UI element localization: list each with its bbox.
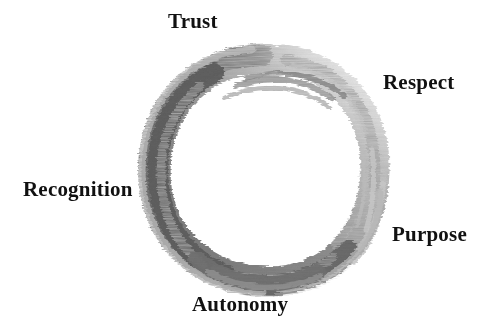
enso-brush-circle [0,0,497,333]
value-label-recognition: Recognition [23,179,133,200]
diagram-canvas: Trust Respect Purpose Autonomy Recogniti… [0,0,497,333]
value-label-trust: Trust [168,11,218,32]
value-label-purpose: Purpose [392,224,467,245]
value-label-autonomy: Autonomy [192,294,288,315]
value-label-respect: Respect [383,72,454,93]
